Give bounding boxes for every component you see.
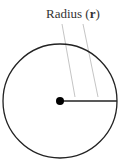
radius-label: Radius (r) — [46, 6, 100, 21]
center-point — [56, 97, 64, 105]
leader-line-left — [62, 24, 75, 97]
leader-line-right — [83, 24, 98, 97]
radius-diagram: Radius (r) — [0, 0, 126, 161]
